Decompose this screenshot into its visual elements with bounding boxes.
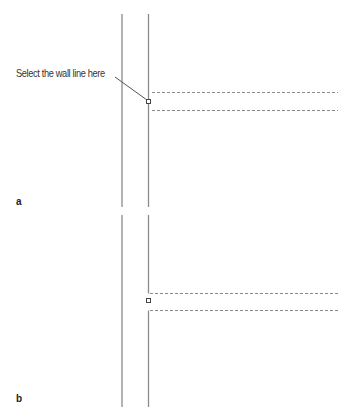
selection-marker-a bbox=[147, 100, 151, 104]
selection-marker-b bbox=[147, 299, 151, 303]
figure-drawing bbox=[0, 0, 354, 418]
panel-b-drawing bbox=[122, 215, 338, 407]
panel-label-a: a bbox=[16, 196, 22, 207]
panel-a-drawing bbox=[115, 14, 338, 207]
leader-line bbox=[115, 77, 147, 100]
panel-label-b: b bbox=[16, 393, 22, 404]
callout-text: Select the wall line here bbox=[16, 67, 105, 79]
wall-opening-figure: Select the wall line here a b bbox=[0, 0, 354, 418]
